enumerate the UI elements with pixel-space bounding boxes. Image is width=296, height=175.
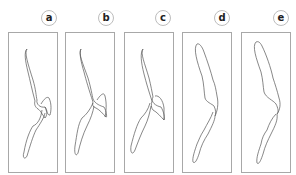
outline-c bbox=[131, 49, 165, 153]
outline-e bbox=[254, 42, 280, 164]
jaw-outlines bbox=[0, 0, 296, 175]
outline-d bbox=[193, 44, 218, 163]
outline-b bbox=[75, 49, 107, 155]
outline-a bbox=[23, 49, 51, 158]
